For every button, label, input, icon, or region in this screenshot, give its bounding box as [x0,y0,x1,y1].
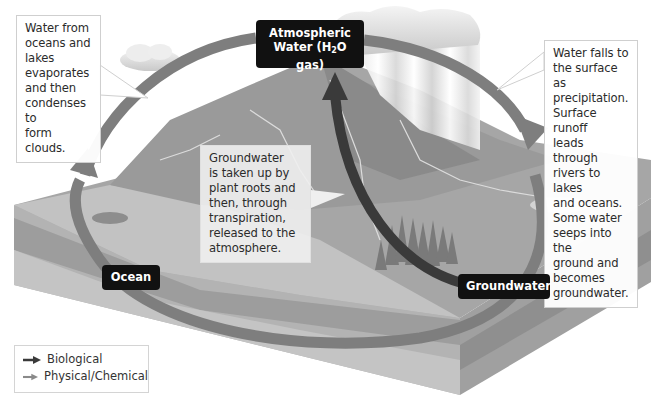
label-atmospheric-line1: Atmospheric [264,26,356,40]
legend-label: Physical/Chemical [44,368,148,385]
label-text: Water (H [273,40,331,54]
legend-label: Biological [47,351,102,368]
callout-pointer [497,52,544,90]
callout-transpiration: Groundwater is taken up by plant roots a… [200,145,311,263]
arrow-right-icon [23,356,41,364]
legend-item-biological: Biological [23,351,148,368]
label-ocean: Ocean [102,265,160,290]
arrow-right-icon [23,373,38,381]
callout-evaporation: Water from oceans and lakes evaporates a… [16,15,101,163]
label-atmospheric-line2: Water (H2O gas) [264,40,356,72]
legend-item-physical-chemical: Physical/Chemical [23,368,148,385]
legend: Biological Physical/Chemical [14,345,149,393]
label-groundwater: Groundwater [458,274,550,299]
callout-precipitation: Water falls to the surface as precipitat… [544,40,638,308]
label-atmospheric-water: Atmospheric Water (H2O gas) [256,20,364,68]
